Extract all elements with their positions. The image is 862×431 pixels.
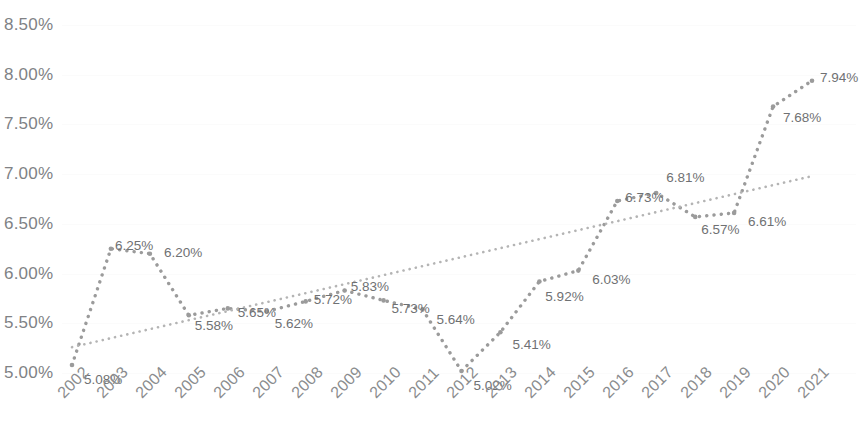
data-point-marker xyxy=(70,363,75,368)
data-point-label: 7.68% xyxy=(783,110,821,125)
data-point-label: 5.83% xyxy=(351,279,389,294)
data-point-label: 5.41% xyxy=(512,337,550,352)
data-point-marker xyxy=(576,268,581,273)
data-point-marker xyxy=(810,78,815,83)
data-point-label: 5.72% xyxy=(314,292,352,307)
line-chart: 8.50%8.00%7.50%7.00%6.50%6.00%5.50%5.00%… xyxy=(0,0,862,431)
data-point-label: 5.65% xyxy=(238,305,276,320)
data-point-label: 6.03% xyxy=(592,272,630,287)
data-point-marker xyxy=(615,199,620,204)
data-point-marker xyxy=(226,306,231,311)
data-point-label: 5.92% xyxy=(545,289,583,304)
data-point-label: 6.73% xyxy=(625,190,663,205)
data-point-label: 6.81% xyxy=(666,170,704,185)
data-point-label: 6.20% xyxy=(164,245,202,260)
data-point-label: 5.64% xyxy=(437,312,475,327)
data-point-marker xyxy=(303,299,308,304)
data-point-label: 6.57% xyxy=(701,222,739,237)
data-point-marker xyxy=(771,104,776,109)
data-point-label: 5.58% xyxy=(195,318,233,333)
data-point-marker xyxy=(732,211,737,216)
data-point-label: 7.94% xyxy=(820,70,858,85)
data-point-label: 5.62% xyxy=(275,316,313,331)
data-point-label: 6.61% xyxy=(748,214,786,229)
data-point-marker xyxy=(693,215,698,220)
data-point-marker xyxy=(537,279,542,284)
data-point-label: 6.25% xyxy=(115,238,153,253)
data-point-marker xyxy=(187,313,192,318)
data-point-marker xyxy=(109,246,114,251)
data-point-marker xyxy=(381,298,386,303)
data-point-marker xyxy=(498,330,503,335)
data-point-label: 5.73% xyxy=(392,301,430,316)
